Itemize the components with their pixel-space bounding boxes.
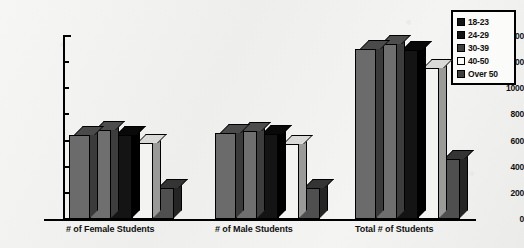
legend: 18-23 24-29 30-39 40-50 Over 50 [451,10,516,85]
bar-front-face [69,135,90,219]
y-axis-tick-label: 800 [478,109,524,119]
bar-group [69,30,187,219]
x-axis-line [44,219,476,221]
y-axis-tick-label: 200 [478,188,524,198]
legend-label: 18-23 [468,17,489,27]
bar-top-face [444,150,474,159]
bar-side-face [131,126,140,219]
plot-area [65,30,465,219]
legend-label: Over 50 [468,69,498,79]
bar-side-face [152,134,161,219]
y-axis-tick-label: 600 [478,136,524,146]
legend-item: 40-50 [457,54,511,67]
bar-top-face [423,59,453,68]
legend-swatch-icon [457,57,465,65]
legend-item: 30-39 [457,41,511,54]
bar-top-face [137,134,167,143]
bar-top-face [283,135,313,144]
y-axis-tick-label: 400 [478,162,524,172]
bar [69,135,90,219]
bar-top-face [304,179,334,188]
bar-side-face [277,125,286,219]
bar-side-face [459,150,468,219]
bar-chart: 0200400600800100012001400 # of Female St… [0,0,524,248]
legend-swatch-icon [457,18,465,26]
legend-swatch-icon [457,44,465,52]
bar [215,133,236,219]
bar-side-face [396,35,405,219]
bar-side-face [235,124,244,219]
x-axis-category-label: Total # of Students [355,224,433,234]
bar-side-face [89,126,98,219]
bar-top-face [116,126,146,135]
bar-side-face [256,122,265,219]
legend-item: 18-23 [457,15,511,28]
legend-label: 24-29 [468,30,489,40]
bar-side-face [417,41,426,219]
bar-front-face [355,49,376,219]
y-axis-tick-label: 0 [478,214,524,224]
bar-top-face [158,179,188,188]
bar [355,49,376,219]
legend-swatch-icon [457,70,465,78]
bar-group [215,30,333,219]
legend-item: 24-29 [457,28,511,41]
bar-top-face [402,41,432,50]
legend-label: 40-50 [468,56,489,66]
legend-item: Over 50 [457,67,511,80]
bar-front-face [215,133,236,219]
legend-swatch-icon [457,31,465,39]
x-axis-category-label: # of Male Students [215,224,293,234]
bar-side-face [438,59,447,219]
bar-side-face [298,135,307,219]
bar-side-face [375,40,384,219]
bar-side-face [110,121,119,219]
x-axis-category-label: # of Female Students [66,224,155,234]
legend-label: 30-39 [468,43,489,53]
